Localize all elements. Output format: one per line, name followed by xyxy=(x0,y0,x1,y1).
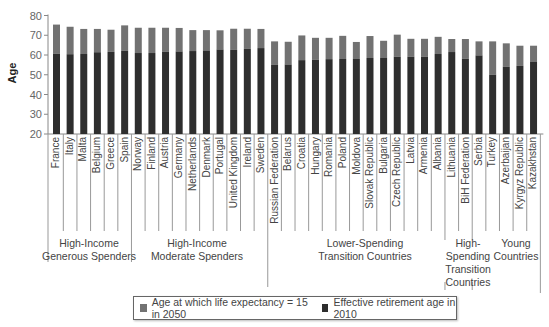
x-tick-label: United Kingdom xyxy=(228,137,241,232)
x-tick-label: Malta xyxy=(78,137,91,232)
bar-life-expectancy xyxy=(326,38,333,59)
x-tick-label: Portugal xyxy=(214,137,227,232)
x-tick-label: Serbia xyxy=(473,137,486,232)
legend: Age at which life expectancy = 15 in 205… xyxy=(133,296,457,320)
bar-retirement-age xyxy=(94,52,101,134)
x-tick-label: Germany xyxy=(173,137,186,232)
bar-retirement-age xyxy=(421,57,428,134)
bar-retirement-age xyxy=(257,48,264,134)
bar-retirement-age xyxy=(53,54,60,134)
bar-life-expectancy xyxy=(257,29,264,48)
group-label: High-IncomeModerate Spenders xyxy=(142,237,252,263)
retirement-age-chart: Age 20304050607080 FranceItalyMaltaBelgi… xyxy=(0,0,549,327)
bar-life-expectancy xyxy=(462,39,469,59)
bar-life-expectancy xyxy=(312,38,319,60)
bar-retirement-age xyxy=(189,51,196,134)
bar-life-expectancy xyxy=(162,28,169,52)
x-tick-label: Ireland xyxy=(241,137,254,232)
legend-swatch-retirement xyxy=(322,304,329,312)
x-tick-label: Belarus xyxy=(282,137,295,232)
bar-life-expectancy xyxy=(80,29,87,54)
bar-retirement-age xyxy=(448,52,455,134)
bar-life-expectancy xyxy=(353,42,360,59)
bar-retirement-age xyxy=(353,59,360,134)
bar-retirement-age xyxy=(148,53,155,134)
bar-life-expectancy xyxy=(339,36,346,59)
bar-retirement-age xyxy=(298,60,305,134)
x-tick-label: Romania xyxy=(323,137,336,232)
bar-life-expectancy xyxy=(271,41,278,65)
bar-life-expectancy xyxy=(448,39,455,52)
bar-life-expectancy xyxy=(244,29,251,49)
bar-life-expectancy xyxy=(298,35,305,60)
bar-life-expectancy xyxy=(380,41,387,58)
bar-retirement-age xyxy=(366,58,373,134)
x-tick-label: Albania xyxy=(432,137,445,232)
bar-life-expectancy xyxy=(135,28,142,53)
bar-life-expectancy xyxy=(189,30,196,51)
bar-life-expectancy xyxy=(421,39,428,57)
bar-life-expectancy xyxy=(489,41,496,74)
bar-life-expectancy xyxy=(148,28,155,53)
x-tick-label: Armenia xyxy=(419,137,432,232)
bar-life-expectancy xyxy=(503,43,510,67)
x-tick-label: Sweden xyxy=(255,137,268,232)
bar-retirement-age xyxy=(80,54,87,134)
x-tick-label: Slovak Republic xyxy=(364,137,377,232)
x-tick-label: Belgium xyxy=(91,137,104,232)
bar-life-expectancy xyxy=(394,35,401,57)
bar-retirement-age xyxy=(271,65,278,134)
x-tick-label: Russian Federation xyxy=(269,137,282,232)
bar-retirement-age xyxy=(489,75,496,134)
bar-retirement-age xyxy=(380,58,387,134)
bar-retirement-age xyxy=(435,54,442,134)
bar-life-expectancy xyxy=(516,46,523,66)
group-label: YoungCountries xyxy=(461,237,549,263)
bar-retirement-age xyxy=(135,53,142,134)
bar-life-expectancy xyxy=(53,25,60,54)
x-tick-label: Netherlands xyxy=(187,137,200,232)
x-tick-label: Turkey xyxy=(487,137,500,232)
x-tick-label: Finland xyxy=(146,137,159,232)
bar-retirement-age xyxy=(285,64,292,134)
bar-life-expectancy xyxy=(285,42,292,65)
bar-retirement-age xyxy=(176,51,183,134)
bar-retirement-age xyxy=(203,50,210,134)
x-tick-label: Moldova xyxy=(350,137,363,232)
bar-life-expectancy xyxy=(476,41,483,55)
bar-life-expectancy xyxy=(366,36,373,58)
bar-life-expectancy xyxy=(530,46,537,62)
x-tick-label: Denmark xyxy=(200,137,213,232)
bar-retirement-age xyxy=(326,59,333,134)
x-tick-label: Hungary xyxy=(309,137,322,232)
x-tick-label: Kyrgyz Republic xyxy=(514,137,527,232)
bar-life-expectancy xyxy=(203,30,210,50)
x-tick-label: BiH Federation xyxy=(459,137,472,232)
bar-life-expectancy xyxy=(121,25,128,50)
x-tick-label: France xyxy=(51,137,64,232)
bar-retirement-age xyxy=(230,50,237,134)
x-tick-label: Azerbaijan xyxy=(500,137,513,232)
x-tick-label: Poland xyxy=(337,137,350,232)
bar-retirement-age xyxy=(530,62,537,134)
group-label: Lower-SpendingTransition Countries xyxy=(310,237,420,263)
bar-life-expectancy xyxy=(108,30,115,52)
bar-retirement-age xyxy=(476,55,483,134)
bar-life-expectancy xyxy=(217,30,224,49)
group-label: High-IncomeGenerous Spenders xyxy=(34,237,144,263)
bar-life-expectancy xyxy=(407,39,414,57)
x-tick-label: Latvia xyxy=(405,137,418,232)
bar-life-expectancy xyxy=(94,29,101,52)
legend-swatch-life-expectancy xyxy=(140,304,147,312)
bar-retirement-age xyxy=(462,59,469,134)
bar-retirement-age xyxy=(162,52,169,134)
bar-life-expectancy xyxy=(67,27,74,54)
bar-retirement-age xyxy=(121,51,128,134)
x-tick-label: Lithuania xyxy=(446,137,459,232)
bar-retirement-age xyxy=(339,59,346,134)
bar-retirement-age xyxy=(516,66,523,134)
bar-retirement-age xyxy=(312,60,319,134)
bar-retirement-age xyxy=(407,57,414,134)
legend-label-retirement: Effective retirement age in 2010 xyxy=(333,296,456,320)
x-tick-label: Bulgaria xyxy=(378,137,391,232)
